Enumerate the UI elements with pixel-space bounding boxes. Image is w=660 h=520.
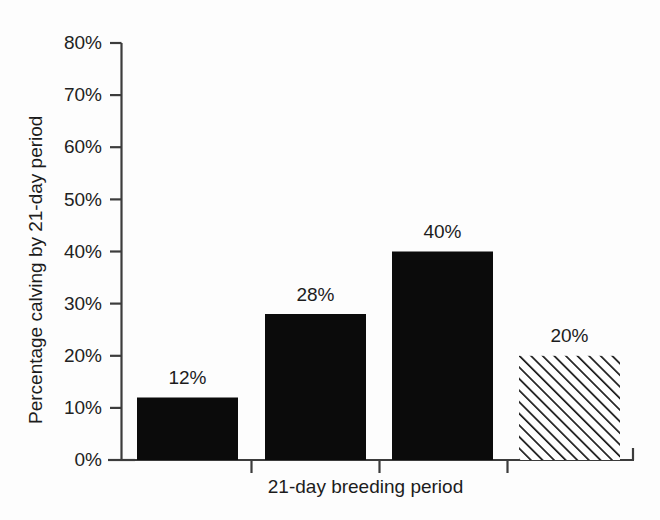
y-axis-title: Percentage calving by 21-day period [26,116,45,424]
bar-1-value-label: 12% [137,368,238,387]
bar-2-value-label: 28% [265,285,366,304]
bar-4[interactable] [519,356,620,460]
y-tick-label-80: 80% [34,33,102,52]
bar-1[interactable] [137,398,238,461]
y-tick-label-70: 70% [34,85,102,104]
bar-2[interactable] [265,314,366,460]
bar-4-value-label: 20% [519,326,620,345]
x-axis-title: 21-day breeding period [223,477,508,496]
bar-3[interactable] [392,252,493,461]
chart-figure: 80% 70% 60% 50% 40% 30% 20% 10% 0% 12% 2… [0,0,660,520]
bar-3-value-label: 40% [392,222,493,241]
y-tick-label-0: 0% [34,450,102,469]
